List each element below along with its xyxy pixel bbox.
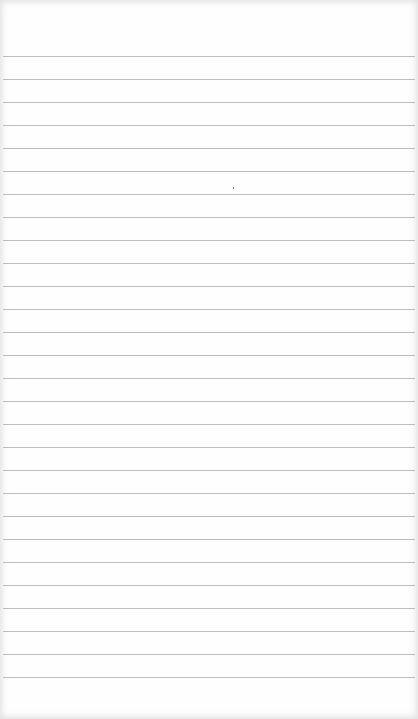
ruled-line (3, 447, 415, 448)
ruled-line (3, 102, 415, 103)
ruled-line (3, 332, 415, 333)
ruled-line (3, 286, 415, 287)
ruled-line (3, 631, 415, 632)
ruled-line (3, 309, 415, 310)
ruled-line (3, 562, 415, 563)
ruled-line (3, 240, 415, 241)
ruled-line (3, 148, 415, 149)
ruled-line (3, 654, 415, 655)
ruled-line (3, 424, 415, 425)
ruled-line (3, 378, 415, 379)
ruled-line (3, 401, 415, 402)
ruled-line (3, 608, 415, 609)
ruled-line (3, 470, 415, 471)
ruled-line (3, 171, 415, 172)
ruled-line (3, 56, 415, 57)
ruled-line (3, 79, 415, 80)
ruled-line (3, 677, 415, 678)
ruled-line (3, 516, 415, 517)
notepad-page[interactable] (0, 0, 418, 719)
ruled-line (3, 217, 415, 218)
ruled-line (3, 355, 415, 356)
ruled-line (3, 539, 415, 540)
ruled-line (3, 585, 415, 586)
ruled-line (3, 194, 415, 195)
ruled-line (3, 263, 415, 264)
ruled-line (3, 125, 415, 126)
ruled-line (3, 493, 415, 494)
ink-mark (233, 187, 234, 189)
